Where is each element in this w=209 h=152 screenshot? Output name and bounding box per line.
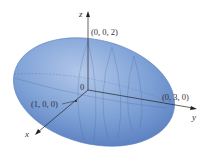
y-axis-label: y bbox=[191, 112, 196, 122]
x-intercept-point bbox=[75, 100, 77, 102]
x-axis-label: x bbox=[24, 129, 29, 139]
z-intercept-label: (0, 0, 2) bbox=[91, 27, 118, 37]
ellipsoid-surface bbox=[2, 22, 186, 152]
z-axis-label: z bbox=[78, 9, 83, 19]
y-intercept-label: (0, 3, 0) bbox=[162, 92, 189, 102]
origin-label: 0 bbox=[80, 82, 84, 92]
ellipsoid-diagram: z y x (0, 0, 2) (0, 3, 0) (1, 0, 0) 0 bbox=[0, 0, 209, 152]
x-intercept-label: (1, 0, 0) bbox=[31, 99, 58, 109]
